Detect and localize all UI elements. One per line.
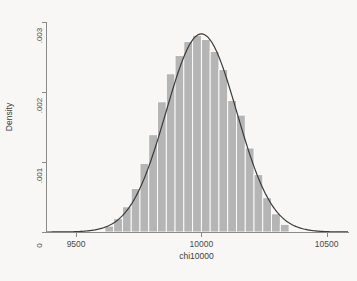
- x-axis-line: [46, 232, 349, 233]
- x-tick-mark: [327, 233, 328, 237]
- histogram-bar: [245, 148, 254, 232]
- histogram-bar: [140, 163, 149, 232]
- chart-canvas: [46, 22, 348, 232]
- histogram-bar: [210, 51, 219, 232]
- histogram-bar: [149, 135, 158, 232]
- histogram-bar: [272, 214, 281, 232]
- histogram-bar: [175, 56, 184, 232]
- x-tick-label: 10500: [297, 239, 357, 249]
- histogram-bar: [158, 102, 167, 232]
- x-tick-mark: [76, 233, 77, 237]
- x-tick-label: 9500: [46, 239, 106, 249]
- y-tick-label: .001: [35, 161, 44, 191]
- x-tick-label: 10000: [171, 239, 231, 249]
- histogram-bar: [219, 70, 228, 232]
- y-tick-label: .002: [35, 91, 44, 121]
- y-axis-line: [46, 22, 47, 233]
- plot-area: [46, 22, 348, 232]
- histogram-bar: [254, 175, 263, 232]
- histogram-bar: [114, 219, 123, 232]
- histogram-bar: [201, 40, 210, 233]
- histogram-bar: [184, 42, 193, 232]
- histogram-bar: [193, 35, 202, 232]
- histogram-bar: [236, 115, 245, 232]
- y-axis-title: Density: [4, 92, 14, 142]
- x-tick-mark: [201, 233, 202, 237]
- histogram-bar: [228, 100, 237, 232]
- y-tick-label: .003: [35, 21, 44, 51]
- histogram-bar: [280, 224, 289, 232]
- histogram-bar: [131, 189, 140, 232]
- x-axis-title: chi10000: [0, 251, 357, 261]
- histogram-figure: 0.001.002.003 95001000010500 Density chi…: [0, 0, 357, 281]
